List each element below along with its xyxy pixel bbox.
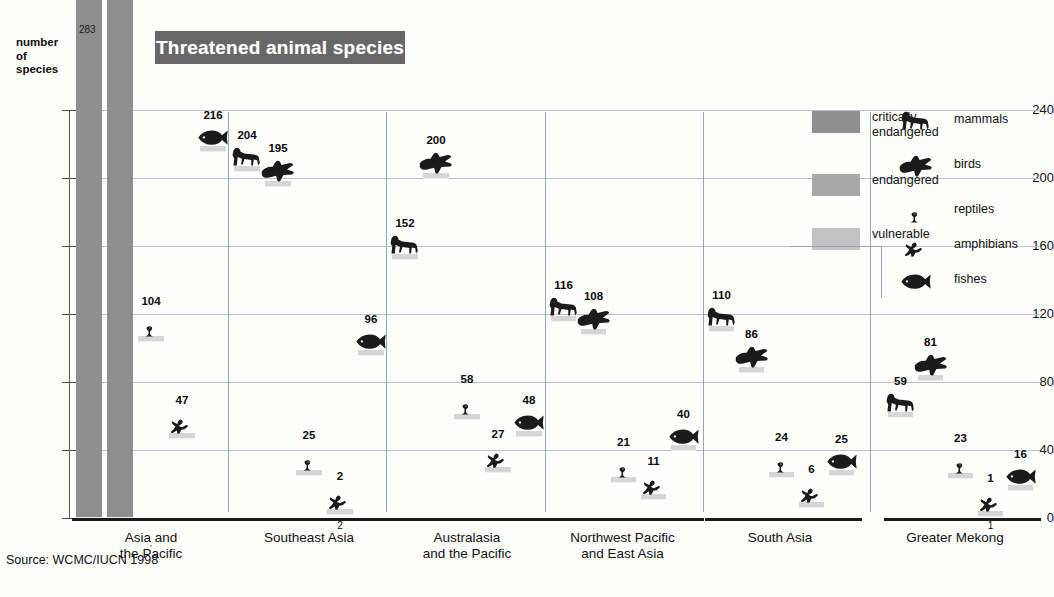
source-note: Source: WCMC/IUCN 1998 <box>6 553 158 567</box>
bar-mammals[interactable]: 283 <box>76 0 102 518</box>
group-baseline <box>705 518 862 521</box>
bar-total-label: 47 <box>158 394 206 406</box>
taxon-icon-fishes <box>667 423 701 447</box>
legend-amphibians-icon <box>903 232 929 258</box>
bar-total-label: 152 <box>381 217 429 229</box>
bar-total-label: 16 <box>997 448 1045 460</box>
bar-amphibians[interactable] <box>641 499 666 518</box>
y-tick-row: 160 <box>0 246 1054 247</box>
bar-mammals[interactable] <box>888 417 913 517</box>
bar-segment: 283 <box>76 0 102 518</box>
legend-birds-icon <box>898 152 934 178</box>
taxon-icon-fishes <box>354 328 388 352</box>
y-axis-title: numberofspecies <box>16 36 78 77</box>
group-baseline <box>884 518 1041 521</box>
group-baseline <box>547 518 704 521</box>
bar-birds[interactable] <box>581 334 606 517</box>
bar-total-label: 81 <box>907 336 955 348</box>
bar-mammals[interactable] <box>392 259 418 517</box>
bar-fishes[interactable] <box>516 436 542 518</box>
bar-total-label: 25 <box>818 433 866 445</box>
taxon-icon-birds <box>734 343 770 369</box>
legend-mammals-icon <box>899 108 933 132</box>
x-axis-label-line: Northwest Pacific <box>545 530 700 546</box>
taxon-icon-fishes <box>825 448 859 472</box>
bar-birds[interactable] <box>918 380 943 518</box>
taxon-icon-birds <box>913 351 949 377</box>
group-separator <box>870 112 871 512</box>
bar-total-label: 21 <box>600 436 648 448</box>
chart-canvas: Threatened animal speciesnumberofspecies… <box>0 0 1054 597</box>
bar-total-label: 24 <box>758 431 806 443</box>
bar-total-label: 116 <box>540 279 588 291</box>
legend-taxon-label-fishes: fishes <box>954 272 1052 287</box>
x-axis-label-3: Australasiaand the Pacific <box>392 530 542 562</box>
group-separator <box>386 112 387 512</box>
x-axis-label-6: Greater Mekong <box>880 530 1030 546</box>
bar-amphibians[interactable] <box>485 472 511 518</box>
x-axis-label-line: and the Pacific <box>392 546 542 562</box>
bar-birds[interactable] <box>265 186 291 517</box>
bar-total-label: 108 <box>570 290 618 302</box>
taxon-icon-mammals <box>388 232 422 256</box>
bar-underline-value: 1 <box>970 520 1011 531</box>
taxon-icon-amphibians <box>799 478 825 504</box>
taxon-icon-amphibians <box>485 443 511 469</box>
x-axis-label-line: Southeast Asia <box>234 530 384 546</box>
bar-total-label: 96 <box>347 313 395 325</box>
bar-total-label: 110 <box>698 289 746 301</box>
bar-amphibians[interactable] <box>169 438 195 518</box>
taxon-icon-amphibians <box>327 485 353 511</box>
bar-total-label: 104 <box>127 295 175 307</box>
legend-divider-vertical <box>881 246 882 298</box>
x-axis-label-line: and East Asia <box>545 546 700 562</box>
y-axis-line <box>69 110 70 518</box>
bar-fishes[interactable] <box>1008 490 1033 517</box>
group-baseline <box>230 518 392 521</box>
x-axis-label-4: Northwest Pacificand East Asia <box>545 530 700 562</box>
taxon-icon-reptiles <box>457 388 477 416</box>
bar-reptiles[interactable] <box>769 477 794 518</box>
bar-amphibians[interactable] <box>799 507 824 517</box>
bar-fishes[interactable] <box>671 450 696 518</box>
bar-segment <box>107 0 133 518</box>
bar-mammals[interactable] <box>551 321 576 518</box>
bar-reptiles[interactable] <box>948 478 973 517</box>
bar-mammals[interactable] <box>234 171 260 517</box>
x-axis-label-5: South Asia <box>705 530 855 546</box>
taxon-icon-mammals <box>705 304 739 328</box>
legend-taxon-label-mammals: mammals <box>954 112 1052 127</box>
chart-title: Threatened animal species <box>156 37 404 59</box>
y-axis-title-line: number <box>16 36 78 50</box>
bar-reptiles[interactable] <box>138 341 164 518</box>
taxon-icon-birds <box>576 305 612 331</box>
legend-swatch-endangered <box>812 174 860 196</box>
legend-taxon-label-amphibians: amphibians <box>954 237 1052 252</box>
bar-fishes[interactable] <box>358 355 384 518</box>
taxon-icon-amphibians <box>169 409 195 435</box>
bar-birds[interactable] <box>423 178 449 518</box>
taxon-icon-fishes <box>512 409 546 433</box>
legend-taxon-label-reptiles: reptiles <box>954 202 1052 217</box>
segment-value: 283 <box>79 24 96 35</box>
taxon-icon-mammals <box>884 390 918 414</box>
bar-total-label: 195 <box>254 142 302 154</box>
bar-total-label: 2 <box>316 470 364 482</box>
x-axis-label-line: South Asia <box>705 530 855 546</box>
legend-divider <box>790 246 882 247</box>
bar-reptiles[interactable] <box>611 482 636 518</box>
source-tick-mark: ' <box>150 543 152 553</box>
bar-birds[interactable] <box>107 0 133 518</box>
bar-birds[interactable] <box>739 372 764 518</box>
taxon-icon-reptiles <box>141 310 161 338</box>
legend-fishes-icon <box>899 268 933 292</box>
bar-total-label: 200 <box>412 134 460 146</box>
bar-total-label: 204 <box>223 129 271 141</box>
bar-fishes[interactable] <box>200 151 226 518</box>
x-axis-label-2: Southeast Asia <box>234 530 384 546</box>
y-axis-title-line: of <box>16 50 78 64</box>
taxon-icon-birds <box>260 157 296 183</box>
bar-fishes[interactable] <box>829 475 854 517</box>
bar-mammals[interactable] <box>709 331 734 518</box>
bar-total-label: 216 <box>189 109 237 121</box>
